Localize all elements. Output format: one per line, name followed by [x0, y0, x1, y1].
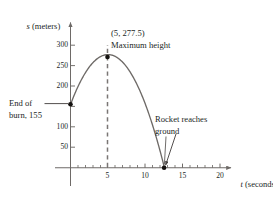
x-axis-label: t (seconds): [232, 170, 273, 199]
y-axis-label: s (meters): [18, 12, 60, 41]
rocket-ground-label-line1: Rocket reaches: [155, 115, 207, 125]
y-tick-300: 300: [44, 41, 68, 50]
x-tick-10: 10: [137, 172, 153, 181]
x-axis: [55, 164, 231, 168]
x-tick-15: 15: [175, 172, 191, 181]
y-tick-250: 250: [44, 62, 68, 71]
end-of-burn-label-line2: burn, 155: [9, 111, 42, 121]
y-tick-100: 100: [44, 123, 68, 132]
x-tick-20: 20: [212, 172, 228, 181]
leader-arrow-rocket-ground: [166, 134, 176, 165]
y-tick-50: 50: [44, 143, 68, 152]
marker-rocket-reaches-ground: [162, 166, 167, 171]
leader-arrow-rocket-ground-secondary: [164, 137, 166, 165]
end-of-burn-label-line1: End of: [9, 99, 32, 109]
max-point-coordinates: (5, 277.5): [111, 29, 145, 39]
marker-maximum-height: [105, 55, 110, 60]
rocket-height-figure: s (meters) t (seconds) 300 250 200 100 5…: [0, 0, 273, 207]
rocket-trajectory-curve: [71, 55, 165, 168]
y-tick-200: 200: [44, 82, 68, 91]
rocket-ground-label-line2: ground: [155, 127, 179, 137]
max-height-label: Maximum height: [111, 41, 170, 51]
x-tick-5: 5: [100, 172, 115, 181]
marker-end-of-burn: [68, 102, 73, 107]
